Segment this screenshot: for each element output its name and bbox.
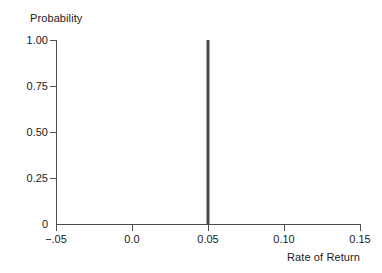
x-axis-tick-mark — [132, 225, 133, 231]
y-axis-tick-mark — [50, 178, 56, 179]
x-axis-tick-label: 0.0 — [124, 233, 139, 245]
y-axis-tick-label: 1.00 — [27, 35, 48, 46]
x-axis-tick-mark — [284, 225, 285, 231]
y-axis-tick-label: 0.25 — [27, 173, 48, 184]
x-axis-tick-label: 0.05 — [197, 233, 218, 245]
x-axis-tick-mark — [56, 225, 57, 231]
y-axis-tick-mark — [50, 86, 56, 87]
x-axis-tick-label: −.05 — [45, 233, 67, 245]
y-axis-tick-mark — [50, 40, 56, 41]
y-axis-title: Probability — [30, 12, 82, 25]
x-axis-tick-label: 0.15 — [349, 233, 370, 245]
x-axis-tick-label: 0.10 — [273, 233, 294, 245]
y-axis-tick-label: 0.50 — [27, 127, 48, 138]
x-axis-tick-mark — [208, 225, 209, 231]
y-axis-tick-label: 0.75 — [27, 81, 48, 92]
x-axis-tick-mark — [360, 225, 361, 231]
y-axis-line — [56, 40, 57, 225]
probability-spike-bar — [207, 40, 210, 224]
probability-distribution-chart: Probability 1.00 0.75 0.50 0.25 0 −.05 0… — [0, 0, 382, 273]
x-axis-title: Rate of Return — [287, 251, 360, 264]
y-axis-tick-label: 0 — [42, 219, 48, 230]
y-axis-tick-mark — [50, 132, 56, 133]
